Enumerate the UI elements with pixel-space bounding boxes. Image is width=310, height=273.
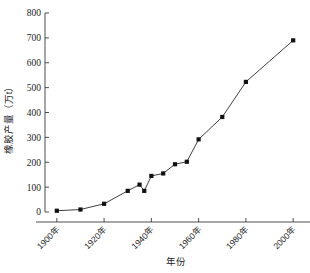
y-tick-label: 700 [27, 33, 42, 43]
data-point-marker [55, 209, 59, 213]
y-tick-label: 600 [27, 58, 42, 68]
y-tick-label: 200 [27, 158, 42, 168]
y-axis [45, 13, 49, 212]
series-line [57, 40, 293, 210]
data-point-marker [197, 137, 201, 141]
rubber-production-chart: 0100200300400500600700800 1900年1920年1940… [0, 0, 310, 273]
data-point-marker [291, 38, 295, 42]
y-tick-label: 300 [27, 133, 42, 143]
y-axis-title: 橡胶产量（万t） [3, 82, 14, 155]
data-point-marker [173, 162, 177, 166]
x-tick-label: 1920年 [82, 224, 109, 251]
data-point-marker [137, 183, 141, 187]
chart-canvas: 0100200300400500600700800 1900年1920年1940… [0, 0, 310, 273]
x-axis-tick-labels: 1900年1920年1940年1960年1980年2000年 [35, 224, 298, 251]
x-axis [36, 218, 310, 222]
data-point-marker [149, 174, 153, 178]
data-point-marker [161, 171, 165, 175]
data-point-marker [126, 189, 130, 193]
y-tick-label: 500 [27, 83, 42, 93]
x-tick-label: 1900年 [35, 224, 62, 251]
y-tick-label: 400 [27, 108, 42, 118]
data-point-marker [244, 80, 248, 84]
y-tick-label: 100 [27, 183, 42, 193]
x-tick-label: 2000年 [271, 224, 298, 251]
data-point-marker [185, 160, 189, 164]
x-tick-label: 1960年 [177, 224, 204, 251]
data-point-marker [220, 115, 224, 119]
y-tick-label: 0 [36, 207, 41, 217]
y-tick-label: 800 [27, 8, 42, 18]
data-point-marker [78, 207, 82, 211]
data-point-marker [102, 202, 106, 206]
x-tick-label: 1980年 [224, 224, 251, 251]
x-axis-title: 年份 [166, 256, 186, 267]
x-tick-label: 1940年 [129, 224, 156, 251]
y-axis-tick-labels: 0100200300400500600700800 [27, 8, 42, 217]
data-point-marker [142, 189, 146, 193]
data-series-rubber-production [55, 38, 296, 213]
